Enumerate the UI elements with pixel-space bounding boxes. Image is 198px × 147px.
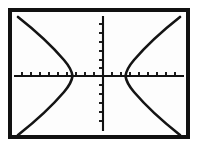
screen-title: Graphing Calculator Screen: [0, 0, 1, 1]
screenshot-root: Hyperbola Graphing calculator display of…: [0, 0, 198, 147]
plot-area[interactable]: [12, 12, 186, 135]
calculator-screen-frame: [8, 8, 190, 139]
chart-title: Hyperbola: [0, 0, 1, 1]
chart-equation: x^2/a^2 - y^2/b^2 = 1: [0, 0, 1, 1]
chart-subtitle: Graphing calculator display of a horizon…: [0, 0, 1, 1]
hyperbola-graph: [12, 12, 186, 135]
